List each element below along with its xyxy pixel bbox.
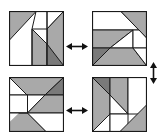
- puzzle-panel-bottom-right: [92, 77, 147, 132]
- tangram-tiles-top-left: [9, 11, 64, 66]
- puzzle-panel-top-right: [92, 11, 147, 66]
- tangram-tiles-top-right: [92, 11, 147, 66]
- double-arrow-horizontal-bottom-icon: [66, 100, 88, 119]
- puzzle-panel-bottom-left: [9, 77, 64, 132]
- tangram-tiles-bottom-right: [92, 77, 147, 132]
- double-arrow-horizontal-top-icon: [66, 36, 88, 55]
- double-arrow-vertical-right-icon: [149, 62, 158, 88]
- tangram-tiles-bottom-left: [9, 77, 64, 132]
- puzzle-panel-top-left: [9, 11, 64, 66]
